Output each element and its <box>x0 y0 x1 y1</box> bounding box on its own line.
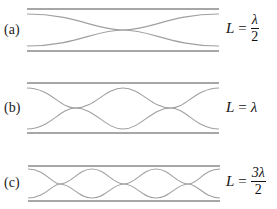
fraction-numerator: 3λ <box>251 166 266 182</box>
panel-b-tube <box>27 83 219 133</box>
fraction-numerator: λ <box>251 13 259 29</box>
equation-a: L = λ 2 <box>226 13 259 44</box>
wave-curve-lower <box>27 14 219 46</box>
wave-curve-upper <box>27 88 219 129</box>
fraction-denominator: 2 <box>251 29 258 44</box>
equation-lhs: L <box>226 173 234 190</box>
equals-sign: = <box>238 20 246 37</box>
panel-label-b: (b) <box>4 100 20 116</box>
panel-label-a: (a) <box>4 22 20 38</box>
equation-b: L = λ <box>226 99 257 116</box>
panel-c-tube <box>28 166 220 201</box>
equals-sign: = <box>238 173 246 190</box>
equation-rhs: λ <box>251 99 258 116</box>
fraction: λ 2 <box>251 13 259 44</box>
equals-sign: = <box>238 99 246 116</box>
fraction-denominator: 2 <box>255 182 262 197</box>
wave-curve-lower <box>27 88 219 129</box>
panel-label-c: (c) <box>4 175 20 191</box>
fraction: 3λ 2 <box>251 166 266 197</box>
panel-a-tube <box>27 9 219 51</box>
equation-c: L = 3λ 2 <box>226 166 266 197</box>
equation-lhs: L <box>226 20 234 37</box>
equation-lhs: L <box>226 99 234 116</box>
